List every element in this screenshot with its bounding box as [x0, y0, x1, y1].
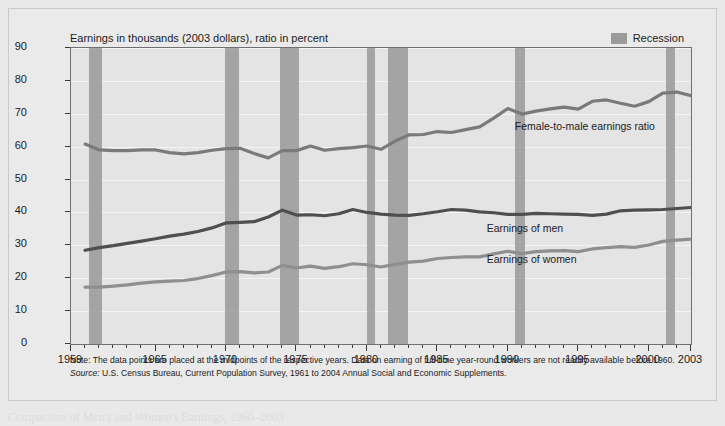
source-text: U.S. Census Bureau, Current Population S…: [100, 368, 507, 378]
y-tick-label: 60: [0, 139, 27, 151]
legend-label: Recession: [633, 32, 684, 44]
recession-swatch-icon: [611, 33, 627, 44]
series-annotation: Earnings of women: [487, 253, 577, 265]
note-text: Note: The data points are placed at the …: [70, 354, 695, 367]
source-label: Source:: [70, 368, 100, 378]
y-tick-label: 20: [0, 270, 27, 282]
y-tick-label: 30: [0, 237, 27, 249]
legend-recession: Recession: [611, 32, 684, 44]
chart-subtitle: Earnings in thousands (2003 dollars), ra…: [70, 32, 328, 44]
y-tick-label: 40: [0, 204, 27, 216]
y-tick-label: 0: [0, 336, 27, 348]
y-tick-label: 10: [0, 303, 27, 315]
series-line: [85, 208, 691, 251]
source-line: Source: U.S. Census Bureau, Current Popu…: [70, 367, 695, 380]
series-annotation: Earnings of men: [487, 222, 563, 234]
plot-area: Female-to-male earnings ratioEarnings of…: [70, 47, 692, 345]
figure-caption: Comparison of Men's and Women's Earnings…: [8, 410, 717, 425]
y-tick-label: 90: [0, 40, 27, 52]
y-tick-label: 50: [0, 172, 27, 184]
y-tick-label: 70: [0, 106, 27, 118]
chart-panel: Median Annual Earnings, 1998 Dollars (th…: [8, 8, 717, 401]
figure-notes: Note: The data points are placed at the …: [70, 354, 695, 379]
figure-container: Median Annual Earnings, 1998 Dollars (th…: [0, 0, 725, 426]
series-line: [85, 239, 691, 287]
series-annotation: Female-to-male earnings ratio: [515, 120, 655, 132]
y-tick-label: 80: [0, 73, 27, 85]
series-lines: [71, 48, 691, 344]
